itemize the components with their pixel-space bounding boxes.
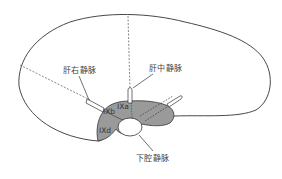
right-hepatic-vein-shape [86, 99, 104, 112]
segment-label-ixd: IXd [99, 127, 111, 135]
vertical-dashed-line [128, 16, 130, 90]
middle-hepatic-vein-shape [128, 88, 132, 103]
left-hepatic-vein-shape [167, 96, 182, 107]
segment-label-ixb: IXb [103, 108, 115, 116]
segment-label-ixa: IXa [117, 103, 129, 111]
label-inferior-vena-cava: 下腔静脉 [136, 154, 169, 163]
label-right-hepatic-vein: 肝右静脉 [63, 66, 96, 75]
liver-outline-svg [0, 0, 282, 179]
middle-hepatic-vein-leader [133, 74, 153, 88]
label-middle-hepatic-vein: 肝中静脉 [149, 64, 182, 73]
inferior-vena-cava-shape [118, 118, 142, 136]
ivc-leader [139, 135, 153, 151]
right-hepatic-vein-leader [79, 76, 89, 100]
